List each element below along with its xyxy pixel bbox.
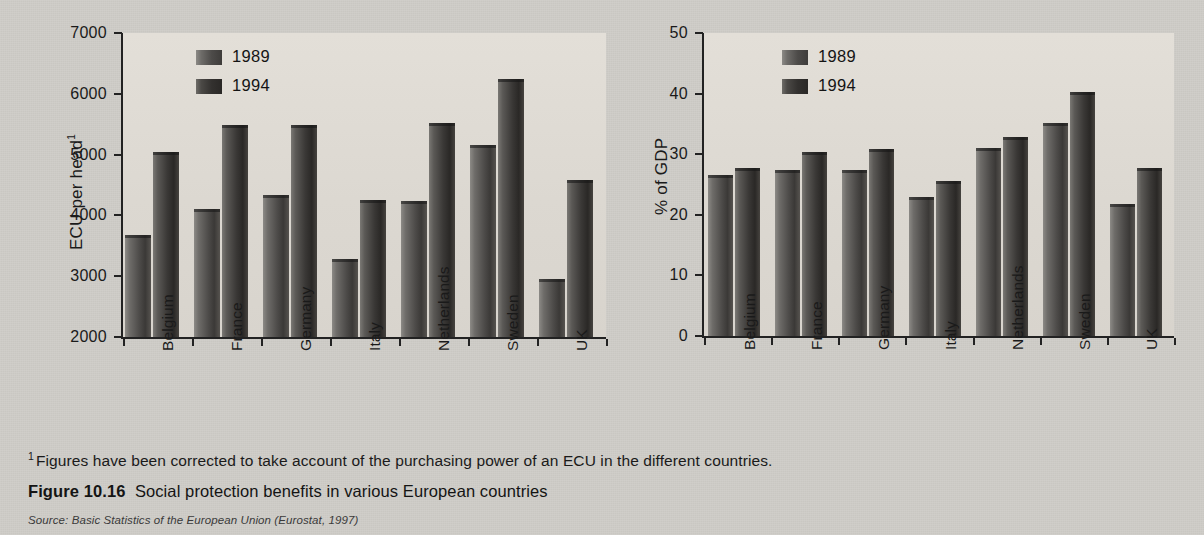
bar-cap	[360, 200, 386, 203]
legend-swatch-1989	[196, 50, 222, 65]
x-axis-tick	[1174, 338, 1176, 345]
bar-cap	[1137, 168, 1162, 171]
bar-cap	[775, 170, 800, 173]
legend-swatch-1989	[782, 50, 808, 65]
y-axis-tick	[114, 336, 122, 338]
legend-swatch-1994	[196, 79, 222, 94]
bar-sweden-1989	[1043, 123, 1068, 336]
legend-label-1989: 1989	[818, 47, 856, 66]
x-axis-tick	[537, 339, 539, 346]
legend-label-1994: 1994	[232, 76, 270, 95]
bar-cap	[976, 148, 1001, 151]
figure-caption: Figure 10.16 Social protection benefits …	[28, 482, 548, 501]
bar-cap	[842, 170, 867, 173]
bar-germany-1989	[263, 195, 289, 337]
y-axis-tick	[695, 274, 703, 276]
legend-label-1989: 1989	[232, 47, 270, 66]
figure-caption-text: Social protection benefits in various Eu…	[135, 482, 548, 500]
y-axis-title-superscript: 1	[66, 134, 77, 140]
bar-cap	[401, 201, 427, 204]
bar-netherlands-1989	[976, 148, 1001, 336]
bar-cap	[222, 125, 248, 128]
y-axis-tick-label: 3000	[0, 267, 107, 285]
x-axis-category-label: UK	[1143, 328, 1161, 350]
source-label: Source:	[28, 514, 68, 526]
bar-uk-1994	[567, 180, 593, 337]
bar-cap	[567, 180, 593, 183]
x-axis-tick	[771, 338, 773, 345]
x-axis-category-label: Italy	[366, 322, 384, 351]
y-axis-tick-label: 20	[600, 206, 688, 224]
bar-france-1989	[194, 209, 220, 337]
x-axis-tick	[261, 339, 263, 346]
bar-cap	[936, 181, 961, 184]
bar-italy-1994	[360, 200, 386, 337]
y-axis-tick-label: 40	[600, 85, 688, 103]
bar-uk-1989	[1110, 204, 1135, 336]
bar-cap	[539, 279, 565, 282]
y-axis-tick-label: 4000	[0, 206, 107, 224]
x-axis-tick	[905, 338, 907, 345]
x-axis-category-label: UK	[573, 329, 591, 351]
bar-cap	[470, 145, 496, 148]
y-axis-tick	[114, 32, 122, 34]
bar-netherlands-1989	[401, 201, 427, 337]
y-axis-tick-label: 6000	[0, 85, 107, 103]
x-axis-category-label: Italy	[942, 321, 960, 350]
y-axis-tick	[695, 153, 703, 155]
bar-sweden-1989	[470, 145, 496, 337]
bar-cap	[735, 168, 760, 171]
y-axis-tick-label: 30	[600, 145, 688, 163]
x-axis-tick	[123, 339, 125, 346]
bar-belgium-1989	[125, 235, 151, 337]
x-axis-tick	[330, 339, 332, 346]
bar-cap	[263, 195, 289, 198]
bar-cap	[1043, 123, 1068, 126]
figure-area: ECU per head1200030004000500060007000Bel…	[0, 0, 1204, 440]
bar-uk-1994	[1137, 168, 1162, 336]
bar-cap	[194, 209, 220, 212]
bar-cap	[802, 152, 827, 155]
x-axis-category-label: Germany	[297, 287, 315, 351]
bar-cap	[153, 152, 179, 155]
y-axis-tick-label: 0	[600, 327, 688, 345]
x-axis-tick	[468, 339, 470, 346]
figure-caption-label: Figure 10.16	[28, 482, 126, 500]
bar-italy-1989	[332, 259, 358, 337]
y-axis-tick	[114, 214, 122, 216]
y-axis-tick	[695, 214, 703, 216]
chart-percent-of-gdp: % of GDP01020304050BelgiumFranceGermanyI…	[600, 0, 1204, 440]
figure-captions: 1Figures have been corrected to take acc…	[0, 440, 1204, 535]
x-axis-category-label: Belgium	[741, 293, 759, 350]
footnote-marker: 1	[28, 450, 34, 462]
bar-italy-1989	[909, 197, 934, 336]
bar-cap	[332, 259, 358, 262]
x-axis-category-label: Netherlands	[1009, 265, 1027, 350]
bar-germany-1989	[842, 170, 867, 336]
y-axis-tick	[114, 154, 122, 156]
y-axis-tick-label: 50	[600, 24, 688, 42]
bar-cap	[125, 235, 151, 238]
bar-cap	[1110, 204, 1135, 207]
bar-belgium-1989	[708, 175, 733, 336]
bar-france-1989	[775, 170, 800, 336]
footnote-text: Figures have been corrected to take acco…	[36, 452, 773, 469]
x-axis-tick	[973, 338, 975, 345]
bar-cap	[1003, 137, 1028, 140]
x-axis-category-label: Germany	[875, 286, 893, 350]
bar-cap	[1070, 92, 1095, 95]
x-axis-category-label: Sweden	[504, 294, 522, 351]
bar-italy-1994	[936, 181, 961, 336]
y-axis-tick	[114, 93, 122, 95]
x-axis-category-label: Belgium	[159, 294, 177, 351]
bar-cap	[708, 175, 733, 178]
y-axis-tick	[114, 275, 122, 277]
y-axis-tick-label: 7000	[0, 24, 107, 42]
y-axis-tick-label: 5000	[0, 146, 107, 164]
x-axis-category-label: France	[808, 301, 826, 350]
x-axis-category-label: France	[228, 302, 246, 351]
x-axis-tick	[399, 339, 401, 346]
figure-source: Source: Basic Statistics of the European…	[28, 514, 358, 526]
chart-ecu-per-head: ECU per head1200030004000500060007000Bel…	[0, 0, 610, 440]
y-axis-tick	[695, 93, 703, 95]
